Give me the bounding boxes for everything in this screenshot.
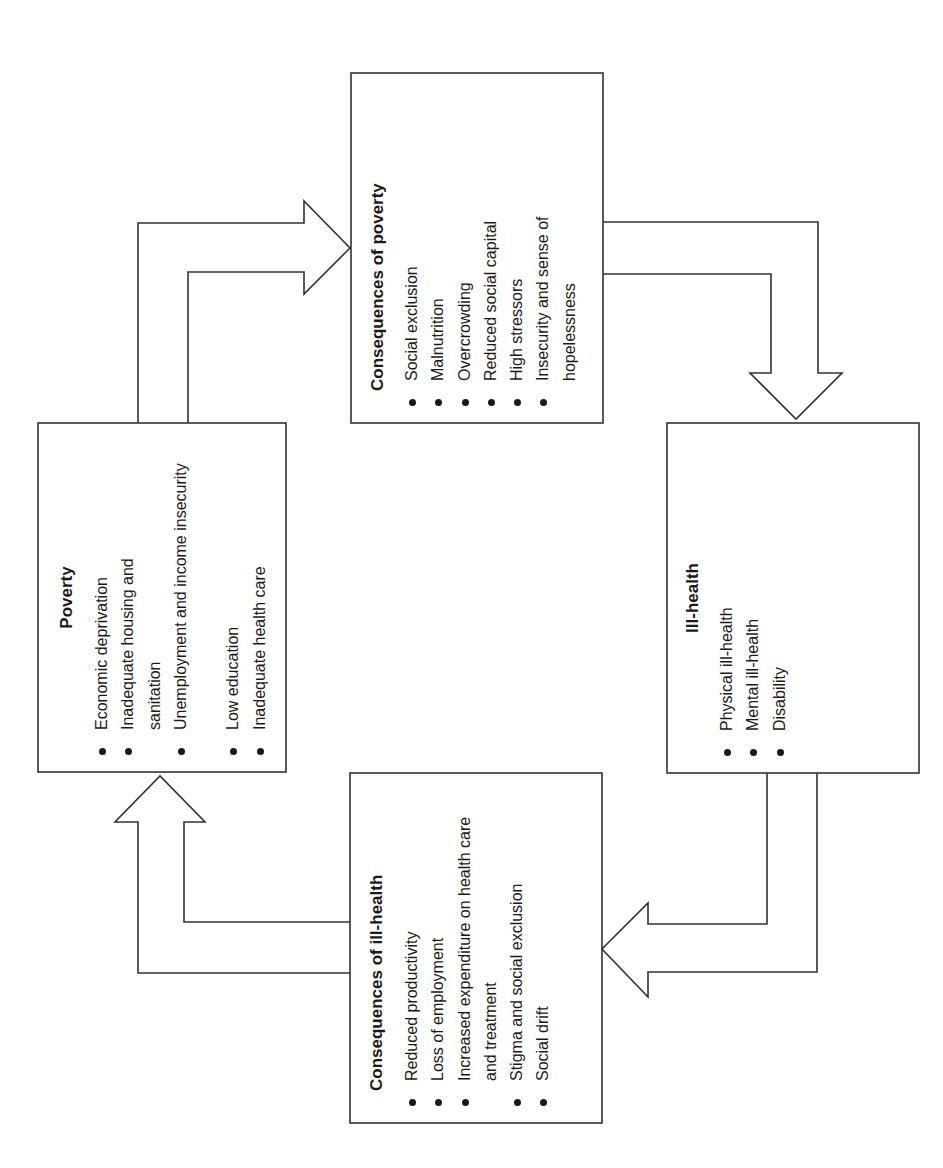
- list-item: Disability: [767, 443, 793, 763]
- bullet-icon: [462, 399, 469, 406]
- list-item: Reduced social capital: [478, 93, 504, 413]
- arrow-consequences-to-poverty-icon: [115, 776, 350, 973]
- bullet-icon: [178, 748, 185, 755]
- list-item: Insecurity and sense of hopelessness: [530, 121, 583, 413]
- consequences-of-poverty-title: Consequences of poverty: [368, 183, 388, 391]
- bullet-icon: [435, 1099, 442, 1106]
- bullet-icon: [540, 399, 547, 406]
- bullet-icon: [257, 748, 264, 755]
- arrow-ill-health-to-consequences-icon: [602, 773, 817, 997]
- bullet-icon: [750, 749, 757, 756]
- list-item: Stigma and social exclusion: [504, 783, 530, 1113]
- list-item: Loss of employment: [425, 783, 451, 1113]
- bullet-icon: [99, 748, 106, 755]
- consequences-of-ill-health-title: Consequences of ill-health: [367, 875, 387, 1091]
- list-item: Malnutrition: [425, 93, 451, 413]
- bullet-icon: [462, 1099, 469, 1106]
- bullet-icon: [514, 399, 521, 406]
- list-item: Increased expenditure on health care and…: [452, 801, 505, 1113]
- list-item: Social drift: [530, 783, 556, 1113]
- consequences-of-poverty-item-list: Social exclusion Malnutrition Overcrowdi…: [399, 93, 583, 413]
- list-item: Mental ill-health: [740, 443, 766, 763]
- list-item: High stressors: [504, 93, 530, 413]
- bullet-icon: [488, 399, 495, 406]
- bullet-icon: [435, 399, 442, 406]
- list-item: Inadequate housing and sanitation: [115, 495, 168, 762]
- list-item: Inadequate health care: [247, 442, 273, 762]
- bullet-icon: [540, 1099, 547, 1106]
- ill-health-item-list: Physical ill-health Mental ill-health Di…: [714, 443, 793, 763]
- list-item: Unemployment and income insecurity: [168, 460, 221, 762]
- poverty-title: Poverty: [57, 423, 77, 772]
- poverty-content: Poverty Economic deprivation Inadequate …: [38, 423, 286, 772]
- consequences-of-ill-health-item-list: Reduced productivity Loss of employment …: [399, 783, 557, 1113]
- ill-health-title: Ill-health: [683, 423, 703, 773]
- bullet-icon: [777, 749, 784, 756]
- list-item: Low education: [220, 442, 246, 762]
- consequences-of-poverty-content: Consequences of poverty Social exclusion…: [351, 73, 603, 423]
- bullet-icon: [514, 1099, 521, 1106]
- bullet-icon: [409, 399, 416, 406]
- arrow-poverty-to-consequences-icon: [138, 201, 350, 423]
- bullet-icon: [409, 1099, 416, 1106]
- bullet-icon: [125, 748, 132, 755]
- poverty-item-list: Economic deprivation Inadequate housing …: [89, 442, 273, 762]
- list-item: Physical ill-health: [714, 443, 740, 763]
- ill-health-content: Ill-health Physical ill-health Mental il…: [667, 423, 919, 773]
- list-item: Economic deprivation: [89, 442, 115, 762]
- list-item: Reduced productivity: [399, 783, 425, 1113]
- list-item: Overcrowding: [452, 93, 478, 413]
- list-item: Social exclusion: [399, 93, 425, 413]
- arrow-consequences-to-ill-health-icon: [603, 222, 842, 419]
- bullet-icon: [724, 749, 731, 756]
- bullet-icon: [230, 748, 237, 755]
- consequences-of-ill-health-content: Consequences of ill-health Reduced produ…: [350, 773, 602, 1123]
